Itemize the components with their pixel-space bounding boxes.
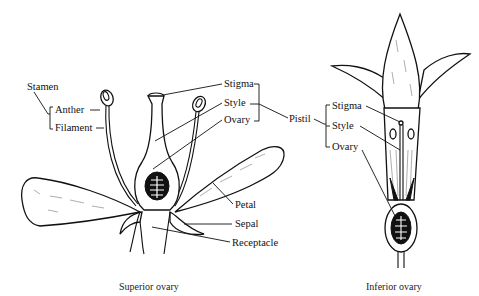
label-inferior-ovary: Ovary xyxy=(332,141,358,153)
label-inferior-stigma: Stigma xyxy=(332,100,362,112)
caption-superior-ovary: Superior ovary xyxy=(119,281,179,293)
flower-diagram: Stamen Anther Filament Stigma Style Ovar… xyxy=(0,0,479,296)
label-inferior-style: Style xyxy=(332,120,354,132)
label-style: Style xyxy=(224,97,246,109)
caption-inferior-ovary: Inferior ovary xyxy=(366,281,422,293)
flower-drawing xyxy=(0,0,479,296)
label-stamen: Stamen xyxy=(27,81,59,93)
label-sepal: Sepal xyxy=(235,218,258,230)
label-receptacle: Receptacle xyxy=(232,237,278,249)
label-petal: Petal xyxy=(235,199,256,211)
label-pistil: Pistil xyxy=(289,113,311,125)
label-ovary: Ovary xyxy=(224,114,250,126)
label-anther: Anther xyxy=(55,104,84,116)
label-stigma: Stigma xyxy=(224,78,254,90)
label-filament: Filament xyxy=(55,122,92,134)
